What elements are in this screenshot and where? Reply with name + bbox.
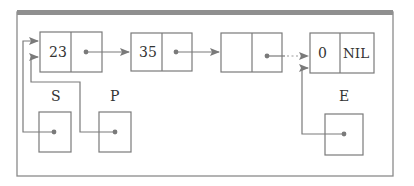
pointer-label-s: S bbox=[51, 88, 61, 104]
node-value: 35 bbox=[139, 44, 157, 60]
linked-list-diagram: 23 35 0 NIL S P bbox=[0, 0, 414, 186]
list-node-4: 0 NIL bbox=[310, 33, 374, 73]
node-value: 0 bbox=[318, 45, 327, 61]
list-node-3 bbox=[221, 33, 308, 72]
pointer-label-e: E bbox=[339, 88, 349, 104]
list-node-1: 23 bbox=[40, 32, 129, 72]
frame-top-bar bbox=[17, 10, 393, 15]
diagram-frame bbox=[17, 10, 393, 176]
list-node-2: 35 bbox=[131, 33, 219, 71]
nil-label: NIL bbox=[343, 45, 369, 61]
pointer-p: P bbox=[31, 57, 131, 152]
node-value: 23 bbox=[49, 44, 67, 60]
pointer-arrow-e bbox=[302, 68, 344, 134]
pointer-e: E bbox=[302, 68, 363, 155]
pointer-label-p: P bbox=[110, 88, 119, 104]
